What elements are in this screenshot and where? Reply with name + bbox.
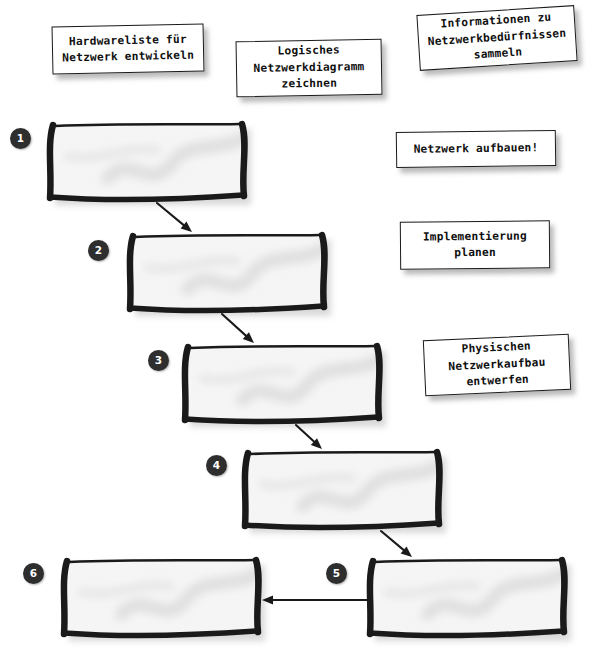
process-bar-1 [38, 112, 256, 210]
step-badge-1: 1 [10, 128, 31, 149]
step-badge-3: 3 [148, 350, 169, 371]
process-bar-2 [118, 223, 336, 321]
diagram-canvas: Hardwareliste für Netzwerk entwickelnLog… [0, 0, 595, 650]
note-netzwerk-aufbauen: Netzwerk aufbauen! [396, 130, 556, 168]
arrow-5-to-6 [262, 595, 368, 604]
note-informationen: Informationen zu Netzwerkbedürfnissen sa… [416, 5, 577, 71]
step-badge-5: 5 [326, 563, 347, 584]
process-bar-3 [173, 334, 391, 432]
note-implementierung: Implementierung planen [400, 220, 550, 269]
step-badge-2: 2 [88, 240, 109, 261]
step-badge-4: 4 [206, 455, 227, 476]
note-physischen-aufbau: Physischen Netzwerkaufbau entwerfen [423, 334, 571, 397]
note-logisches-diagramm: Logisches Netzwerkdiagramm zeichnen [236, 39, 383, 98]
process-bar-5 [358, 548, 576, 646]
process-bar-4 [233, 440, 451, 538]
process-bar-6 [52, 548, 270, 646]
step-badge-6: 6 [23, 563, 44, 584]
note-hardwareliste: Hardwareliste für Netzwerk entwickeln [52, 23, 205, 74]
